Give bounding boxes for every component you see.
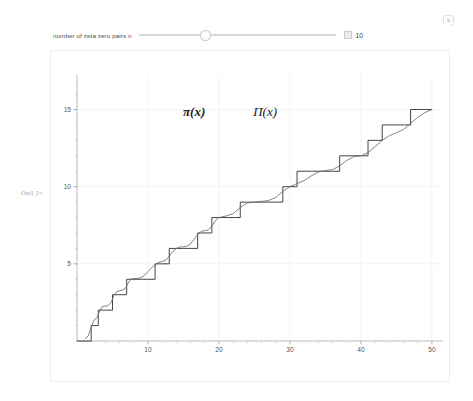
stepper-box-icon[interactable] xyxy=(344,31,352,39)
y-tick-label: 5 xyxy=(67,260,71,267)
slider-value: 10 xyxy=(356,32,364,39)
x-tick-label: 50 xyxy=(428,346,436,353)
series-layer xyxy=(77,110,432,341)
slider-track[interactable] xyxy=(139,34,336,35)
slider-thumb[interactable] xyxy=(200,30,211,41)
pi-lower-label: π(x) xyxy=(183,104,205,119)
options-gear-dot xyxy=(447,19,450,22)
x-tick-label: 10 xyxy=(144,346,152,353)
out-label: Out[ ]= xyxy=(21,189,43,196)
x-tick-label: 30 xyxy=(286,346,294,353)
series-pi-step xyxy=(77,110,432,341)
y-tick-label: 10 xyxy=(64,183,72,190)
x-tick-label: 20 xyxy=(215,346,223,353)
pi-upper-label: Π(x) xyxy=(252,104,277,119)
tick-labels: 102030405051015 xyxy=(64,106,436,353)
series-pi-smooth xyxy=(86,110,432,339)
slider-label: number of zeta zero pairs n xyxy=(53,32,132,39)
manipulate-panel: number of zeta zero pairs n 10 102030405… xyxy=(50,24,450,382)
graphics-frame: 102030405051015 π(x)Π(x) xyxy=(50,50,450,382)
y-tick-label: 15 xyxy=(64,106,72,113)
prime-counting-plot: 102030405051015 π(x)Π(x) xyxy=(51,51,451,383)
slider-control-row: number of zeta zero pairs n 10 xyxy=(50,24,450,46)
annotation-layer: π(x)Π(x) xyxy=(183,104,277,119)
x-tick-label: 40 xyxy=(357,346,365,353)
zeta-zero-pairs-slider[interactable] xyxy=(139,28,336,42)
